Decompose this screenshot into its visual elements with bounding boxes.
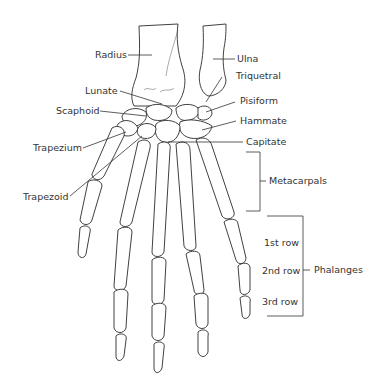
label-phalanges: Phalanges: [314, 264, 363, 275]
little-middle-phalanx: [238, 263, 250, 294]
ring-distal-phalanx: [198, 330, 208, 357]
label-pisiform: Pisiform: [240, 95, 278, 106]
label-lunate: Lunate: [85, 85, 118, 96]
hand-bones-diagram: Radius Ulna Lunate Triquetral Scaphoid P…: [0, 0, 377, 384]
trapezoid-bone: [137, 124, 156, 139]
label-1st-row: 1st row: [264, 237, 299, 248]
index-proximal-phalanx: [114, 227, 132, 290]
index-distal-phalanx: [116, 334, 126, 361]
label-3rd-row: 3rd row: [262, 296, 298, 307]
lunate-bone: [146, 104, 172, 120]
ring-middle-phalanx: [194, 293, 208, 328]
label-triquetral: Triquetral: [236, 70, 281, 81]
capitate-bone: [155, 120, 180, 142]
hammate-bone: [179, 120, 212, 139]
middle-proximal-phalanx: [152, 257, 166, 304]
pisiform-bone: [198, 106, 212, 120]
label-metacarpals: Metacarpals: [269, 175, 327, 186]
thumb-distal-phalanx: [78, 226, 90, 258]
label-trapezoid: Trapezoid: [23, 191, 68, 202]
label-radius: Radius: [95, 49, 127, 60]
index-middle-phalanx: [114, 289, 128, 332]
label-scaphoid: Scaphoid: [56, 105, 100, 116]
middle-metacarpal: [152, 142, 170, 257]
thumb-proximal-phalanx: [80, 180, 102, 225]
middle-middle-phalanx: [152, 303, 166, 340]
little-proximal-phalanx: [224, 219, 246, 263]
middle-distal-phalanx: [154, 342, 164, 373]
ring-metacarpal: [176, 142, 196, 251]
little-metacarpal: [196, 138, 234, 219]
label-ulna: Ulna: [237, 53, 258, 64]
little-distal-phalanx: [240, 296, 250, 319]
label-2nd-row: 2nd row: [262, 265, 300, 276]
triquetral-bone: [176, 104, 200, 120]
label-trapezium: Trapezium: [33, 142, 82, 153]
label-hammate: Hammate: [240, 115, 287, 126]
label-capitate: Capitate: [246, 136, 286, 147]
ring-proximal-phalanx: [186, 251, 204, 294]
index-metacarpal: [120, 140, 150, 227]
ulna-bone: [199, 24, 226, 96]
radius-bone: [132, 24, 185, 106]
